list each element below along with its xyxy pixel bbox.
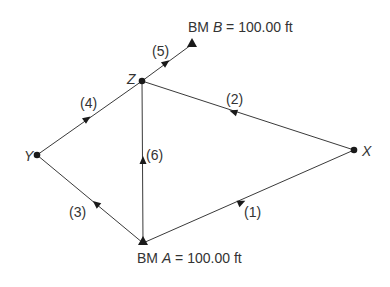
benchmark-b-prefix: BM <box>188 19 213 35</box>
line-1-a-to-x <box>143 150 354 243</box>
benchmark-b-label: BM B = 100.00 ft <box>188 19 293 35</box>
station-x-dot <box>351 147 358 154</box>
leveling-network-diagram: X Y Z (1) (2) (3) (4) (5) (6) BM B = 100… <box>0 0 390 287</box>
benchmark-a-value: = 100.00 ft <box>171 250 242 266</box>
line-2-x-to-z <box>142 81 354 150</box>
station-z-dot <box>139 78 146 85</box>
line-2-label: (2) <box>226 91 243 107</box>
line-5-label: (5) <box>152 43 169 59</box>
line-4-label: (4) <box>80 95 97 111</box>
station-x-label: X <box>361 143 372 159</box>
arrow-icon-line-2 <box>228 107 238 116</box>
station-y-dot <box>34 152 41 159</box>
benchmark-b-value: = 100.00 ft <box>222 19 293 35</box>
benchmark-a-label: BM A = 100.00 ft <box>137 250 242 266</box>
benchmark-a-letter: A <box>161 250 171 266</box>
station-z-label: Z <box>126 71 136 87</box>
line-3-a-to-y <box>37 155 143 243</box>
benchmark-b-triangle-icon <box>187 38 197 47</box>
line-1-label: (1) <box>244 204 261 220</box>
benchmark-a-prefix: BM <box>137 250 162 266</box>
benchmark-b-letter: B <box>213 19 222 35</box>
line-3-label: (3) <box>69 204 86 220</box>
station-y-label: Y <box>24 148 35 164</box>
line-6-label: (6) <box>146 147 163 163</box>
